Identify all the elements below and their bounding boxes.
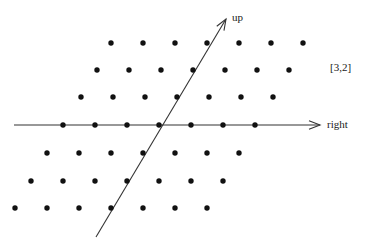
lattice-point xyxy=(206,94,211,99)
lattice-point xyxy=(92,178,97,183)
lattice-point xyxy=(252,122,257,127)
lattice-point xyxy=(190,67,195,72)
lattice-point xyxy=(204,40,209,45)
lattice-point xyxy=(140,205,145,210)
lattice-point xyxy=(268,40,273,45)
lattice-figure: up right [3,2] xyxy=(0,0,379,241)
lattice-point xyxy=(222,67,227,72)
lattice-point xyxy=(172,205,177,210)
lattice-point xyxy=(220,178,225,183)
lattice-point xyxy=(142,94,147,99)
lattice-point xyxy=(60,178,65,183)
axis-layer xyxy=(14,19,320,237)
vector-label: [3,2] xyxy=(330,62,351,73)
lattice-point xyxy=(108,40,113,45)
lattice-point xyxy=(44,205,49,210)
lattice-point xyxy=(94,67,99,72)
lattice-point xyxy=(238,94,243,99)
axis-label-right: right xyxy=(327,119,348,130)
axis-label-up: up xyxy=(232,12,243,23)
lattice-point xyxy=(28,178,33,183)
lattice-point xyxy=(124,122,129,127)
lattice-point xyxy=(140,150,145,155)
lattice-point xyxy=(188,178,193,183)
lattice-point xyxy=(172,150,177,155)
lattice-point xyxy=(76,205,81,210)
axis-arrowhead-up xyxy=(217,19,226,31)
lattice-point xyxy=(204,205,209,210)
lattice-point xyxy=(76,150,81,155)
lattice-point xyxy=(124,178,129,183)
lattice-point xyxy=(236,150,241,155)
lattice-point xyxy=(172,40,177,45)
lattice-point xyxy=(204,150,209,155)
lattice-point xyxy=(300,40,305,45)
lattice-point xyxy=(174,94,179,99)
lattice-point xyxy=(270,94,275,99)
lattice-point xyxy=(188,122,193,127)
lattice-point xyxy=(108,205,113,210)
lattice-point xyxy=(110,94,115,99)
lattice-plot xyxy=(0,0,379,241)
lattice-point xyxy=(44,150,49,155)
lattice-point xyxy=(286,67,291,72)
lattice-point xyxy=(156,178,161,183)
lattice-point xyxy=(60,122,65,127)
lattice-point xyxy=(236,40,241,45)
lattice-point xyxy=(78,94,83,99)
lattice-point xyxy=(108,150,113,155)
lattice-point xyxy=(126,67,131,72)
axis-line-up xyxy=(96,19,226,237)
lattice-point xyxy=(156,122,161,127)
lattice-point xyxy=(220,122,225,127)
lattice-point xyxy=(254,67,259,72)
lattice-point xyxy=(12,205,17,210)
lattice-point xyxy=(158,67,163,72)
lattice-point xyxy=(92,122,97,127)
lattice-point xyxy=(140,40,145,45)
